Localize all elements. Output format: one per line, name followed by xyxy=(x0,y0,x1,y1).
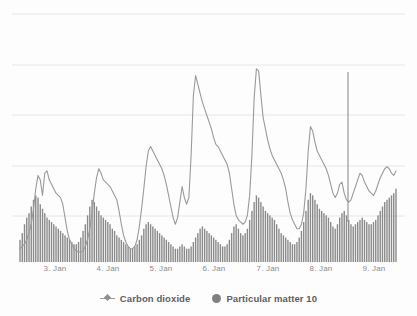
bar xyxy=(391,195,392,262)
bar xyxy=(98,211,99,262)
bar xyxy=(64,235,65,262)
bar xyxy=(109,224,110,262)
bar xyxy=(193,242,194,262)
bar xyxy=(328,218,329,262)
bar xyxy=(211,235,212,262)
bar xyxy=(175,249,176,262)
bar xyxy=(184,246,185,262)
bar xyxy=(208,233,209,262)
x-axis-tick-label: 4. Jan xyxy=(97,264,120,273)
bar xyxy=(226,244,227,262)
bar xyxy=(125,244,126,262)
bar xyxy=(242,235,243,262)
bar xyxy=(148,222,149,262)
bar xyxy=(344,211,345,262)
bar xyxy=(60,231,61,262)
bar xyxy=(121,240,122,262)
bar xyxy=(364,220,365,262)
bar xyxy=(62,233,63,262)
bar xyxy=(190,246,191,262)
bar xyxy=(112,229,113,262)
bar xyxy=(335,229,336,262)
bar xyxy=(42,209,43,262)
bar xyxy=(276,224,277,262)
bar xyxy=(375,220,376,262)
bar xyxy=(154,229,155,262)
bar xyxy=(280,233,281,262)
bar xyxy=(31,207,32,263)
bar xyxy=(188,249,189,262)
legend-item-particular-matter-10[interactable]: Particular matter 10 xyxy=(212,293,317,304)
bar xyxy=(348,220,349,262)
bar xyxy=(393,193,394,262)
bar xyxy=(341,213,342,262)
bar xyxy=(310,193,311,262)
bar xyxy=(170,244,171,262)
bar xyxy=(301,231,302,262)
bar xyxy=(307,200,308,262)
bar xyxy=(389,198,390,262)
bar xyxy=(289,242,290,262)
x-axis-tick-label: 6. Jan xyxy=(203,264,226,273)
combined-bar-line-chart xyxy=(0,0,417,266)
bar xyxy=(357,222,358,262)
bar xyxy=(229,240,230,262)
bar xyxy=(296,242,297,262)
bar xyxy=(249,220,250,262)
bar xyxy=(339,218,340,262)
bar xyxy=(159,233,160,262)
bar xyxy=(292,244,293,262)
bar xyxy=(157,231,158,262)
bar xyxy=(258,198,259,262)
bar xyxy=(134,246,135,262)
bar xyxy=(253,202,254,262)
bar xyxy=(359,220,360,262)
bar xyxy=(143,229,144,262)
bar xyxy=(186,249,187,262)
bar xyxy=(346,215,347,262)
bar xyxy=(386,200,387,262)
bar xyxy=(49,220,50,262)
bar xyxy=(285,238,286,262)
bar xyxy=(132,249,133,262)
x-axis-tick-labels: 3. Jan4. Jan5. Jan6. Jan7. Jan8. Jan9. J… xyxy=(0,264,417,284)
bar xyxy=(76,244,77,262)
bar xyxy=(197,233,198,262)
bar xyxy=(371,224,372,262)
bar xyxy=(317,204,318,262)
bar xyxy=(314,200,315,262)
bar xyxy=(82,231,83,262)
bar xyxy=(139,240,140,262)
bar xyxy=(260,202,261,262)
bar xyxy=(373,222,374,262)
bar xyxy=(382,207,383,263)
bar xyxy=(89,207,90,263)
bar xyxy=(256,195,257,262)
bar xyxy=(321,211,322,262)
bar xyxy=(303,222,304,262)
bar xyxy=(103,218,104,262)
chart-page: 3. Jan4. Jan5. Jan6. Jan7. Jan8. Jan9. J… xyxy=(0,0,417,316)
bar xyxy=(251,211,252,262)
bar xyxy=(40,204,41,262)
bar xyxy=(274,220,275,262)
bar xyxy=(177,249,178,262)
legend-item-carbon-dioxide[interactable]: Carbon dioxide xyxy=(100,293,191,304)
bar xyxy=(395,189,396,262)
bar xyxy=(53,224,54,262)
bar xyxy=(213,238,214,262)
bar xyxy=(116,235,117,262)
chart-plot-area xyxy=(0,0,417,266)
bar xyxy=(136,244,137,262)
bar xyxy=(305,211,306,262)
bar xyxy=(312,195,313,262)
bar xyxy=(240,233,241,262)
bar xyxy=(152,226,153,262)
bar xyxy=(377,215,378,262)
bar xyxy=(319,209,320,262)
bar xyxy=(368,224,369,262)
legend-label-carbon-dioxide: Carbon dioxide xyxy=(120,293,191,304)
x-axis-tick-label: 8. Jan xyxy=(310,264,333,273)
bar xyxy=(384,202,385,262)
bar xyxy=(130,249,131,262)
